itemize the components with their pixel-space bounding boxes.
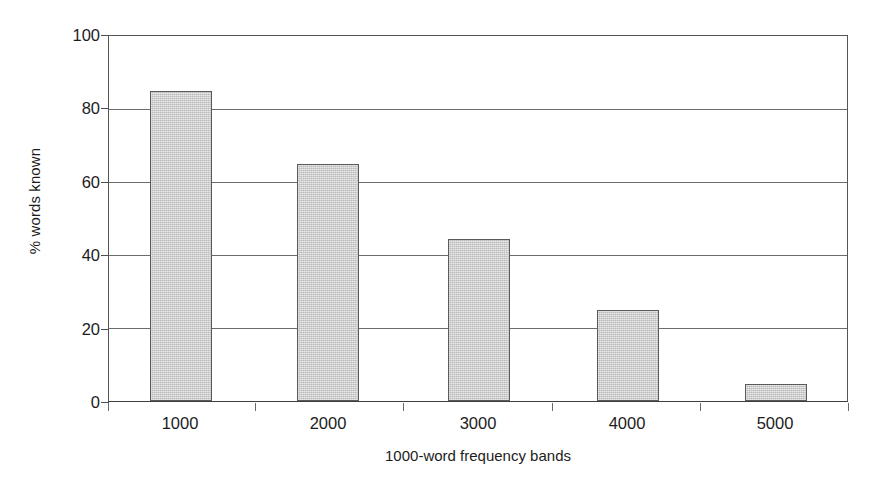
x-tick-label-3000: 3000	[418, 414, 538, 433]
plot-area	[108, 35, 848, 402]
y-tick-label-40: 40	[54, 246, 100, 265]
gridline-60	[109, 182, 847, 183]
x-tick-mark-start	[108, 403, 109, 411]
y-axis-title: % words known	[22, 0, 48, 402]
x-tick-mark-end	[848, 403, 849, 411]
x-tick-label-1000: 1000	[120, 414, 240, 433]
x-tick-mark-3	[552, 403, 553, 411]
bar-4000	[597, 310, 659, 401]
bar-3000	[448, 239, 510, 401]
x-tick-label-5000: 5000	[715, 414, 835, 433]
x-tick-mark-4	[700, 403, 701, 411]
bar-chart-figure: % words known 0 20 40 60 80 100 1000 200…	[0, 0, 880, 489]
x-tick-mark-1	[255, 403, 256, 411]
y-tick-label-60: 60	[54, 172, 100, 191]
bar-1000	[150, 91, 212, 401]
x-tick-label-4000: 4000	[567, 414, 687, 433]
y-tick-label-20: 20	[54, 319, 100, 338]
x-tick-label-2000: 2000	[268, 414, 388, 433]
y-tick-label-0: 0	[54, 393, 100, 412]
x-tick-mark-2	[403, 403, 404, 411]
y-axis-tick-labels: 0 20 40 60 80 100	[52, 0, 100, 489]
x-axis-title: 1000-word frequency bands	[108, 447, 848, 464]
y-tick-label-100: 100	[54, 26, 100, 45]
bar-5000	[745, 384, 807, 401]
bar-2000	[297, 164, 359, 401]
gridline-80	[109, 109, 847, 110]
y-tick-label-80: 80	[54, 99, 100, 118]
